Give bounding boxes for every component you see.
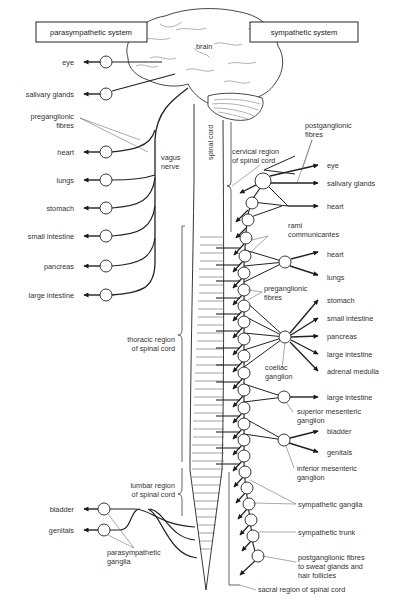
superior-mesenteric-ganglion: [278, 391, 290, 403]
para-target-eye: eye: [62, 58, 74, 67]
symp-inferior-1: inferior mesenteric: [297, 464, 357, 473]
cervical-label-1: cervical region: [232, 147, 279, 156]
sympathetic-title: sympathetic system: [271, 28, 338, 37]
symp-superior-1: superior mesenteric: [297, 407, 361, 416]
lumbar-label-1: lumbar region: [130, 481, 175, 490]
para-preganglionic-2: fibres: [56, 121, 74, 130]
symp-preganglionic-2: fibres: [264, 293, 282, 302]
symp-target-salivary: salivary glands: [327, 179, 376, 188]
coeliac-ganglion: [279, 331, 291, 343]
para-target-small-intestine: small intestine: [28, 232, 74, 241]
para-target-pancreas: pancreas: [44, 262, 74, 271]
cervical-label-2: of spinal cord: [232, 156, 275, 165]
inferior-mesenteric-ganglion: [278, 434, 290, 446]
symp-superior-2: ganglion: [297, 416, 325, 425]
symp-trunk-label: sympathetic trunk: [298, 528, 356, 537]
symp-preganglionic-1: preganglionic: [264, 284, 308, 293]
symp-sweat-3: hair follicles: [298, 571, 336, 580]
symp-target-eye: eye: [327, 161, 339, 170]
para-target-genitals: genitals: [49, 526, 75, 535]
para-target-heart: heart: [57, 148, 74, 157]
sympathetic-title-box: sympathetic system: [250, 22, 358, 42]
symp-postganglionic-2: fibres: [305, 130, 323, 139]
para-target-salivary: salivary glands: [26, 90, 75, 99]
symp-coeliac-2: ganglion: [265, 372, 293, 381]
para-target-stomach: stomach: [46, 204, 74, 213]
lumbar-label-2: of spinal cord: [132, 490, 175, 499]
symp-postganglionic-1: postganglionic: [305, 121, 352, 130]
symp-target-lungs: lungs: [327, 273, 345, 282]
symp-target-adrenal: adrenal medulla: [327, 367, 380, 376]
symp-target-large-intestine: large intestine: [327, 350, 372, 359]
parasympathetic-sacral-pathways: bladder genitals parasympathetic ganglia: [49, 503, 197, 566]
symp-inferior-2: ganglion: [297, 473, 325, 482]
parasympathetic-cranial-pathways: [80, 56, 188, 295]
spinal-cord-label: spinal cord: [206, 125, 215, 160]
vagus-label-1: vagus: [161, 153, 181, 162]
salivary-ganglion: [100, 88, 112, 100]
symp-target-stomach: stomach: [327, 296, 355, 305]
para-target-lungs: lungs: [57, 176, 75, 185]
thoracic-ganglion: [279, 256, 291, 268]
parasympathetic-title-box: parasympathetic system: [36, 22, 147, 42]
symp-target-heart-cervical: heart: [327, 202, 344, 211]
sacral-label: sacral region of spinal cord: [258, 585, 345, 594]
symp-target-small-intestine: small intestine: [327, 314, 373, 323]
symp-rami-1: rami: [288, 221, 303, 230]
sympathetic-labels: postganglionic fibres eye salivary gland…: [264, 121, 380, 580]
symp-target-bladder: bladder: [327, 427, 352, 436]
thoracic-label-2: of spinal cord: [132, 344, 175, 353]
symp-ganglia-label: sympathetic ganglia: [298, 500, 363, 509]
para-target-bladder: bladder: [50, 505, 75, 514]
thoracic-label-1: thoracic region: [127, 335, 175, 344]
eye-ganglion: [100, 56, 112, 68]
para-target-large-intestine: large intestine: [29, 291, 74, 300]
symp-target-genitals: genitals: [327, 448, 353, 457]
symp-sweat-2: to sweat glands and: [298, 562, 363, 571]
symp-sweat-1: postganglionic fibres: [298, 553, 365, 562]
autonomic-nervous-system-diagram: brain parasympathetic system sympathetic…: [0, 0, 405, 605]
symp-coeliac-1: coeliac: [265, 363, 288, 372]
symp-target-pancreas: pancreas: [327, 332, 357, 341]
para-ganglia-label-2: ganglia: [107, 557, 131, 566]
brain-label: brain: [196, 42, 212, 51]
spinal-cord: spinal cord: [190, 104, 224, 590]
para-ganglia-label-1: parasympathetic: [107, 548, 161, 557]
symp-target-large-intestine-2: large intestine: [327, 393, 372, 402]
parasympathetic-title: parasympathetic system: [50, 28, 132, 37]
para-preganglionic-1: preganglionic: [31, 112, 75, 121]
symp-rami-2: communicantes: [288, 230, 339, 239]
vagus-label-2: nerve: [161, 162, 179, 171]
symp-target-heart: heart: [327, 250, 344, 259]
